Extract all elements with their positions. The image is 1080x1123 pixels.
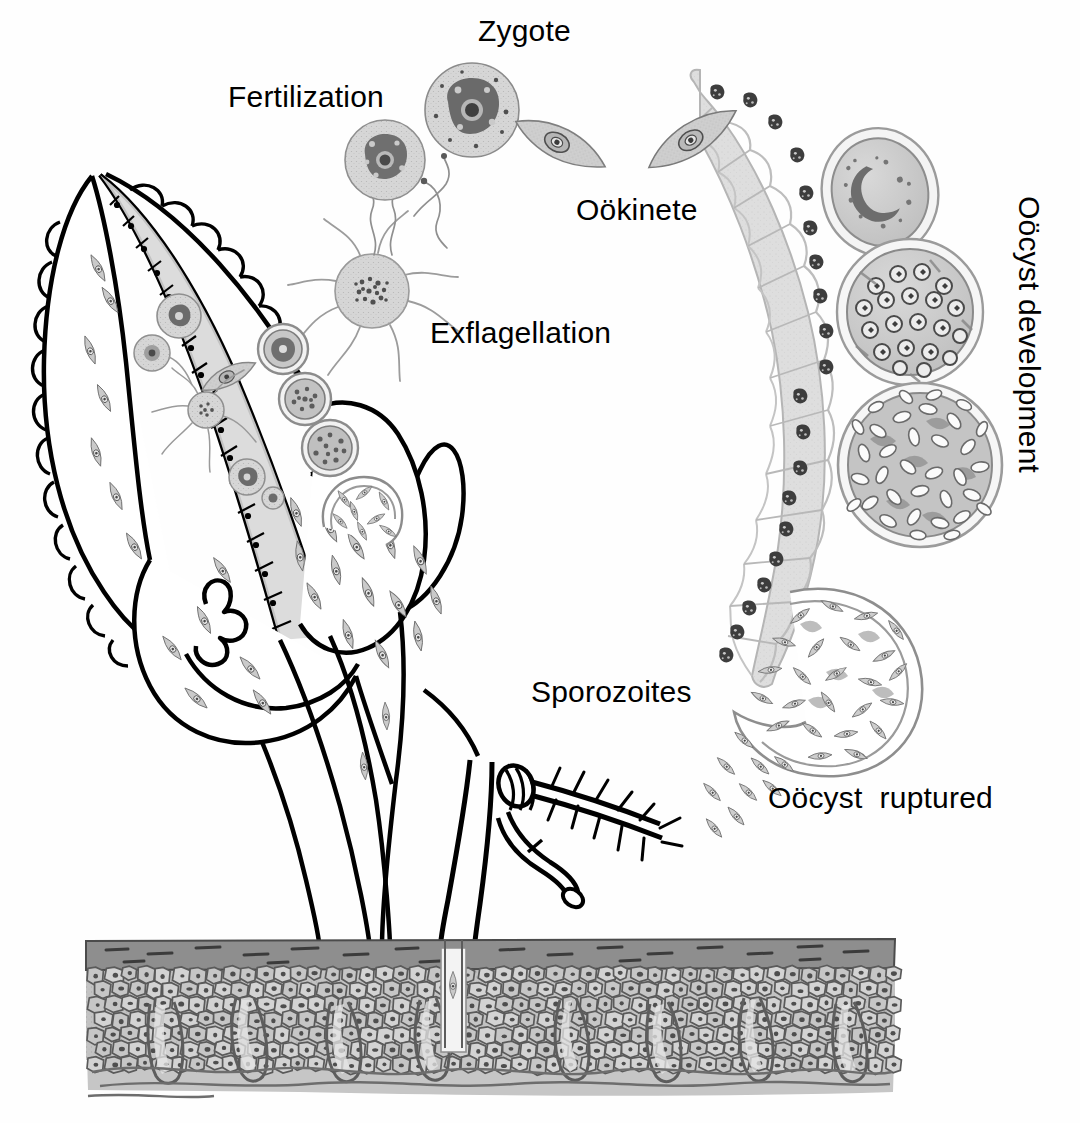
label-oocyst-development: Oöcyst development (1014, 196, 1044, 473)
proboscis-in-skin (441, 940, 466, 1052)
life-cycle-illustration (0, 0, 1080, 1123)
oocyst-sporoblast (837, 239, 983, 385)
figure-canvas: Zygote Fertilization Oökinete Exflagella… (0, 0, 1080, 1123)
zygote-cell (425, 63, 519, 157)
macrogamete-fertilization (345, 120, 447, 248)
label-fertilization: Fertilization (228, 82, 384, 112)
label-oocyst-ruptured: Oöcyst ruptured (768, 783, 993, 813)
mosquito-antenna (532, 768, 682, 860)
exflagellating-microgametocyte (288, 211, 458, 381)
label-zygote: Zygote (478, 16, 571, 46)
label-ookinete: Oökinete (576, 195, 698, 225)
label-exflagellation: Exflagellation (430, 318, 611, 348)
host-skin-section (86, 939, 901, 1097)
label-sporozoites: Sporozoites (531, 677, 692, 707)
oocyst-mature (838, 383, 1002, 547)
ookinete-free (509, 107, 612, 181)
mosquito-head (492, 760, 539, 812)
epidermal-cells (87, 965, 901, 1075)
